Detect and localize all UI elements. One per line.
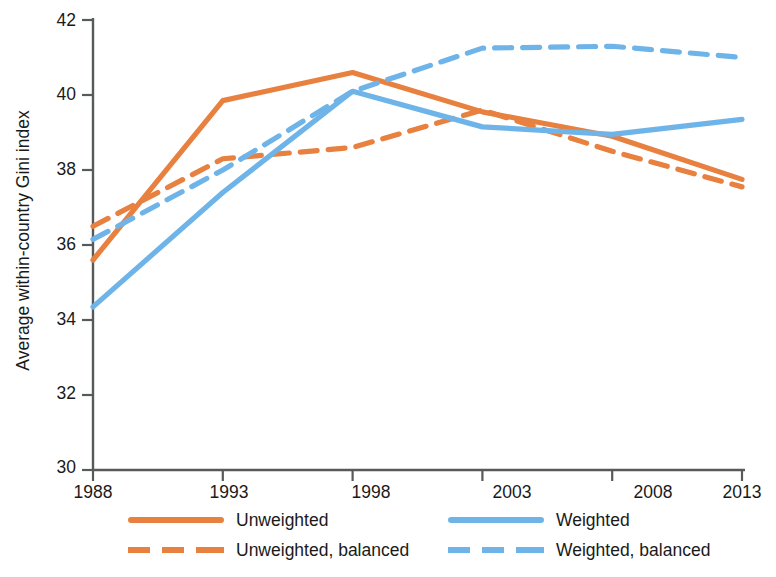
legend-label-unweighted: Unweighted — [236, 510, 328, 531]
x-axis-ticks — [93, 470, 742, 481]
legend-label-unweighted-balanced: Unweighted, balanced — [236, 540, 409, 561]
legend-entry-weighted-balanced: Weighted, balanced — [448, 540, 748, 561]
series-line-unweighted-balanced — [93, 110, 742, 226]
series-line-unweighted — [93, 73, 742, 261]
legend-label-weighted-balanced: Weighted, balanced — [556, 540, 710, 561]
legend-swatch-solid-blue-icon — [448, 517, 544, 523]
chart-legend: Unweighted Weighted Unweighted, balanced… — [128, 505, 748, 565]
legend-label-weighted: Weighted — [556, 510, 630, 531]
series-line-weighted — [93, 91, 742, 307]
legend-swatch-solid-orange-icon — [128, 517, 224, 523]
legend-entry-unweighted: Unweighted — [128, 510, 448, 531]
legend-entry-unweighted-balanced: Unweighted, balanced — [128, 540, 448, 561]
plot-area — [0, 0, 776, 577]
data-series-group — [93, 46, 742, 307]
axis-lines — [93, 18, 745, 470]
chart-figure: Average within-country Gini index 42 40 … — [0, 0, 776, 577]
legend-swatch-dashed-blue-icon — [448, 547, 544, 553]
legend-entry-weighted: Weighted — [448, 510, 748, 531]
legend-swatch-dashed-orange-icon — [128, 547, 224, 553]
y-axis-ticks — [82, 20, 93, 470]
